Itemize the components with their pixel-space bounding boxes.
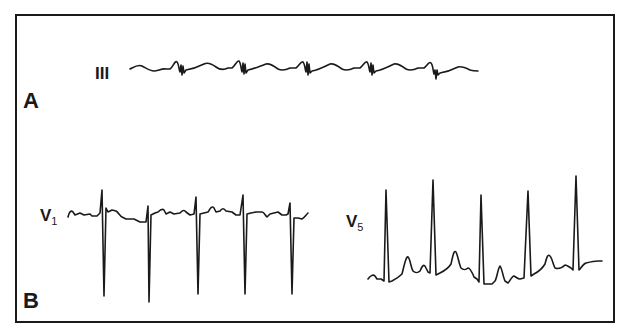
ecg-traces	[0, 0, 625, 332]
ecg-trace-lead-iii	[130, 61, 478, 79]
ecg-trace-lead-v5	[368, 176, 602, 284]
ecg-trace-lead-v1	[68, 190, 308, 302]
